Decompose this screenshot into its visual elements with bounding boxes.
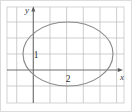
grid-frame (7, 7, 124, 103)
ellipse-figure: y x 1 2 (0, 0, 132, 112)
grid-group (7, 7, 124, 103)
figure-canvas: y x 1 2 (0, 0, 132, 112)
annotation-label-1: 1 (34, 50, 39, 60)
annotation-label-2: 2 (66, 74, 71, 84)
x-axis-label: x (119, 72, 124, 82)
axes-group (7, 6, 123, 103)
image-border (1, 1, 132, 112)
y-axis-label: y (24, 5, 29, 15)
